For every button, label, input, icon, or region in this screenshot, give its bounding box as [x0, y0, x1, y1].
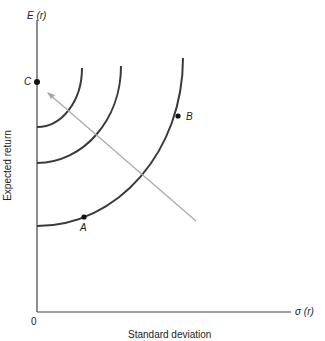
utility-arrow-line — [49, 94, 196, 221]
point-b-label: B — [186, 111, 193, 122]
point-c — [34, 79, 40, 85]
point-c-label: C — [24, 76, 31, 87]
outer-curve — [37, 58, 183, 226]
x-axis-label: Standard deviation — [128, 329, 211, 340]
middle-curve — [37, 66, 121, 163]
x-axis-symbol: σ (r) — [295, 306, 314, 317]
indifference-curve-diagram — [0, 0, 325, 341]
origin-label: 0 — [31, 316, 37, 327]
point-b — [175, 113, 180, 118]
inner-curve — [37, 68, 82, 127]
y-axis-symbol: E (r) — [27, 10, 46, 21]
point-a — [81, 214, 86, 219]
y-axis-label: Expected return — [2, 130, 13, 201]
point-a-label: A — [80, 222, 87, 233]
